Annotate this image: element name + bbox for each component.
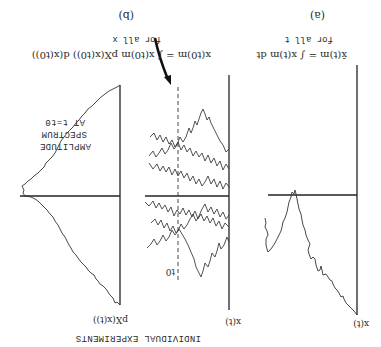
figure-page: (a) x̄(t)m = ∫ x(t)m dt for all t x(t) (…	[0, 0, 381, 347]
panel-b-ensemble-axis-label: x(t)	[225, 317, 241, 327]
spectrum-label-line-2: SPECTRUM	[41, 129, 87, 139]
arrow-head-icon	[164, 75, 171, 85]
panel-b-caption: (b)	[118, 9, 134, 22]
panel-a-axes	[268, 65, 357, 315]
panel-b-ensemble-axes	[145, 75, 229, 310]
panel-a-time-signal	[265, 190, 357, 315]
panel-a-y-axis-label: x(t)	[353, 319, 369, 329]
panel-a-caption: (a)	[310, 9, 325, 22]
spectrum-label-line-3: AT t=t0	[45, 117, 85, 127]
panel-b-density-axis-label: pX(x(t))	[93, 315, 128, 325]
spectrum-label-line-1: AMPLITUDE	[40, 141, 91, 151]
individual-experiments-annotation: INDIVIDUAL EXPERIMENTS	[76, 333, 201, 343]
panel-b-equation: x(t0)m = ∫ x(t0)m pX(x(t0)) d(x(t0))	[32, 50, 211, 61]
panel-a-equation: x̄(t)m = ∫ x(t)m dt	[256, 50, 347, 61]
panel-b-ensemble-traces	[145, 109, 229, 277]
panel-a-equation-note: for all t	[284, 34, 333, 44]
panel-b-equation-note: for all x	[112, 34, 161, 44]
t0-marker-label: t0	[166, 267, 175, 277]
